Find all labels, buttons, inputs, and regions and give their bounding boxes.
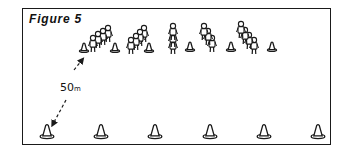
group-3 [169, 23, 178, 54]
cone-icon [94, 125, 108, 139]
cone-icon [257, 125, 271, 139]
cone-icon [110, 43, 119, 52]
cone-icon [311, 125, 325, 139]
group-1 [89, 25, 113, 52]
group-4 [200, 23, 217, 52]
bottom-cone-row [40, 125, 325, 139]
cone-icon [267, 42, 276, 51]
cone-icon [40, 125, 54, 139]
distance-arrow [53, 60, 82, 124]
cone-icon [185, 42, 194, 51]
drill-diagram [0, 0, 350, 162]
cone-icon [203, 125, 217, 139]
cone-icon [79, 43, 88, 52]
cone-icon [144, 43, 153, 52]
group-5 [237, 21, 259, 54]
cone-icon [226, 42, 235, 51]
cone-icon [148, 125, 162, 139]
